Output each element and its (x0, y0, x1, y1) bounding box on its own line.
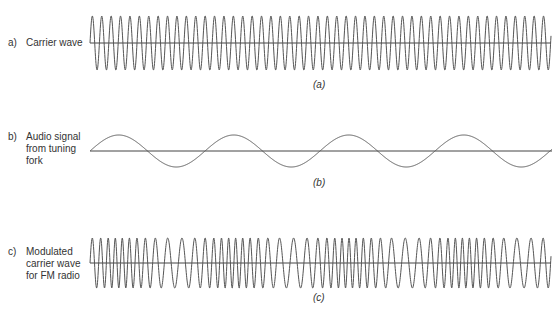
panel-b-text: Audio signal from tuning fork (26, 131, 80, 167)
panel-c-key: c) (8, 246, 16, 258)
carrier-wave-plot (90, 16, 551, 70)
panel-a-text: Carrier wave (26, 37, 83, 49)
panel-a-key: a) (8, 37, 17, 49)
panel-c-text: Modulated carrier wave for FM radio (26, 246, 80, 282)
panel-b-key: b) (8, 131, 17, 143)
fm-modulation-diagram (0, 0, 559, 317)
audio-signal-plot (90, 135, 552, 167)
modulated-wave-plot (90, 238, 551, 288)
caption-a: (a) (313, 79, 325, 90)
caption-c: (c) (313, 292, 325, 303)
caption-b: (b) (313, 177, 325, 188)
